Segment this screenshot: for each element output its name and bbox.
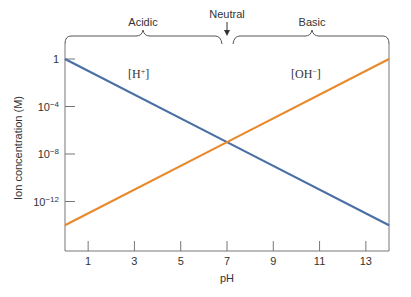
axes xyxy=(65,44,389,251)
x-tick-label: 13 xyxy=(360,255,372,267)
basic-brace xyxy=(233,30,389,44)
acidic-label: Acidic xyxy=(128,16,158,28)
y-tick-label: 10−8 xyxy=(38,147,60,160)
y-tick-label: 1 xyxy=(53,53,59,65)
oh-ion-label: [OH−] xyxy=(291,67,321,81)
neutral-arrow-icon xyxy=(224,22,230,36)
x-axis-title: pH xyxy=(220,272,234,284)
x-tick-label: 7 xyxy=(224,255,230,267)
x-tick-label: 3 xyxy=(131,255,137,267)
y-tick-label: 10−12 xyxy=(33,195,59,208)
series-lines xyxy=(65,59,389,225)
x-tick-label: 9 xyxy=(270,255,276,267)
neutral-label: Neutral xyxy=(209,8,244,20)
basic-label: Basic xyxy=(299,16,326,28)
ph-chart: Acidic Basic Neutral 135791113 110−410−8… xyxy=(0,0,411,297)
h-ion-label: [H+] xyxy=(128,67,149,81)
x-tick-label: 5 xyxy=(178,255,184,267)
acidic-brace xyxy=(65,30,222,44)
y-axis-title: Ion concentration (M) xyxy=(12,96,24,200)
x-ticks: 135791113 xyxy=(85,241,372,267)
x-tick-label: 1 xyxy=(85,255,91,267)
y-tick-label: 10−4 xyxy=(38,100,60,113)
y-ticks: 110−410−810−12 xyxy=(33,53,75,208)
x-tick-label: 11 xyxy=(314,255,325,267)
